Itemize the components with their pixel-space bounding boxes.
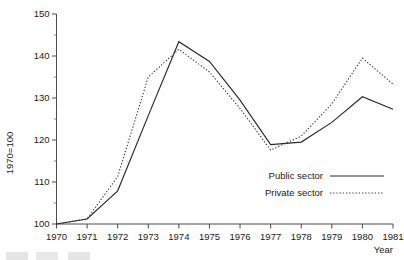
y-tick-label: 150 [34,8,50,19]
x-axis-title: Year [374,244,393,255]
x-tick-label: 1973 [138,231,159,242]
series-line-2 [57,49,394,224]
x-tick-label: 1972 [107,231,128,242]
x-tick-label: 1970 [46,231,67,242]
figure-container: 1001101201301401501970197119721973197419… [0,0,404,260]
caption-fragment [6,252,206,260]
x-tick-label: 1977 [260,231,281,242]
y-tick-label: 100 [34,218,50,229]
x-tick-label: 1980 [352,231,373,242]
line-chart: 1001101201301401501970197119721973197419… [0,0,404,260]
y-tick-label: 130 [34,92,50,103]
x-tick-label: 1971 [77,231,98,242]
y-tick-label: 140 [34,50,50,61]
x-tick-label: 1978 [291,231,312,242]
legend-label-2: Private sector [265,187,323,198]
legend-label-1: Public sector [269,170,323,181]
y-tick-label: 120 [34,134,50,145]
y-tick-label: 110 [34,176,49,187]
series-line-1 [57,42,394,224]
x-tick-label: 1976 [229,231,250,242]
x-tick-label: 1981 [382,231,403,242]
x-tick-label: 1975 [199,231,220,242]
x-tick-label: 1974 [168,231,189,242]
x-tick-label: 1979 [321,231,342,242]
y-axis-title: 1970=100 [4,132,15,175]
